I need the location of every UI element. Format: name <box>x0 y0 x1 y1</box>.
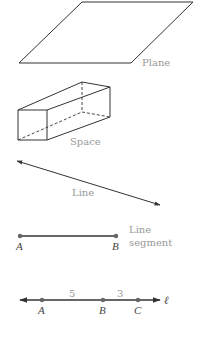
point-A-dot <box>18 234 22 238</box>
prism-edge <box>18 82 82 110</box>
point-B-dot <box>101 298 105 302</box>
plane-parallelogram <box>19 2 193 63</box>
plane-figure: Plane <box>19 2 193 68</box>
prism-edge <box>82 82 110 87</box>
distance-AB-label: 5 <box>69 288 75 299</box>
prism-edge <box>47 87 110 110</box>
point-B-label: B <box>112 240 119 252</box>
segment-label-line2: segment <box>129 237 172 248</box>
prism-front-face <box>18 110 47 140</box>
space-label: Space <box>70 136 101 147</box>
point-C-dot <box>136 298 140 302</box>
line-name-label: ℓ <box>164 294 169 306</box>
segment-figure: A B Line segment <box>15 224 172 252</box>
point-A-label: A <box>15 240 23 252</box>
line-with-arrows <box>17 161 160 205</box>
geometry-figures: Plane Space Line A B Line segment <box>0 0 203 340</box>
line-l-figure: A B C 5 3 ℓ <box>20 288 169 316</box>
point-A-label: A <box>37 304 45 316</box>
point-B-label: B <box>99 304 106 316</box>
segment-label-line1: Line <box>129 224 151 235</box>
space-figure: Space <box>18 82 110 147</box>
line-figure: Line <box>17 161 160 205</box>
point-A-dot <box>40 298 44 302</box>
point-B-dot <box>114 234 118 238</box>
point-C-label: C <box>134 304 142 316</box>
prism-hidden-edge <box>82 112 110 117</box>
line-label: Line <box>72 187 94 198</box>
distance-BC-label: 3 <box>117 288 123 299</box>
plane-label: Plane <box>142 57 170 68</box>
